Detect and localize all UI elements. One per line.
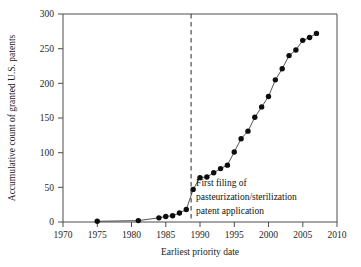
x-tick-label-2000: 2000 <box>259 230 278 240</box>
data-point <box>232 149 237 154</box>
x-tick-label-2005: 2005 <box>293 230 312 240</box>
data-point <box>280 66 285 71</box>
y-tick-label-300: 300 <box>40 9 55 19</box>
y-tick-label-0: 0 <box>49 217 54 227</box>
y-tick-label-50: 50 <box>45 183 55 193</box>
data-point <box>238 136 243 141</box>
chart-svg: 0 50 100 150 200 250 300 1970 1975 1980 … <box>0 0 361 267</box>
data-point <box>211 170 216 175</box>
data-point <box>314 31 319 36</box>
y-tick-label-100: 100 <box>40 148 55 158</box>
x-tick-label-1980: 1980 <box>122 230 141 240</box>
chart-background <box>0 0 361 267</box>
x-tick-label-1985: 1985 <box>156 230 175 240</box>
data-point <box>136 218 141 223</box>
data-point <box>184 207 189 212</box>
data-point <box>225 162 230 167</box>
x-tick-labels: 1970 1975 1980 1985 1990 1995 2000 2005 … <box>54 230 347 240</box>
x-tick-label-1990: 1990 <box>191 230 210 240</box>
x-tick-label-1975: 1975 <box>88 230 107 240</box>
y-tick-label-150: 150 <box>40 113 55 123</box>
data-point <box>286 53 291 58</box>
x-tick-label-1970: 1970 <box>54 230 73 240</box>
x-axis-title: Earliest priority date <box>161 247 239 257</box>
data-point <box>95 219 100 224</box>
data-point <box>218 166 223 171</box>
data-point <box>266 94 271 99</box>
annotation-line-3: patent application <box>196 206 264 216</box>
y-tick-label-200: 200 <box>40 79 55 89</box>
annotation-line-1: First filing of <box>196 178 248 188</box>
data-point <box>259 104 264 109</box>
data-point <box>177 210 182 215</box>
data-point <box>170 213 175 218</box>
data-point <box>273 77 278 82</box>
data-point <box>293 47 298 52</box>
data-point <box>300 38 305 43</box>
data-point <box>163 214 168 219</box>
patent-accumulation-chart: 0 50 100 150 200 250 300 1970 1975 1980 … <box>0 0 361 267</box>
data-point <box>307 35 312 40</box>
y-tick-label-250: 250 <box>40 44 55 54</box>
data-point <box>252 115 257 120</box>
data-point <box>156 215 161 220</box>
data-point <box>245 128 250 133</box>
annotation-line-2: pasteurization/sterilization <box>196 192 297 202</box>
x-tick-label-1995: 1995 <box>225 230 244 240</box>
y-axis-title: Accumulative count of granted U.S. paten… <box>7 34 17 201</box>
x-tick-label-2010: 2010 <box>328 230 347 240</box>
